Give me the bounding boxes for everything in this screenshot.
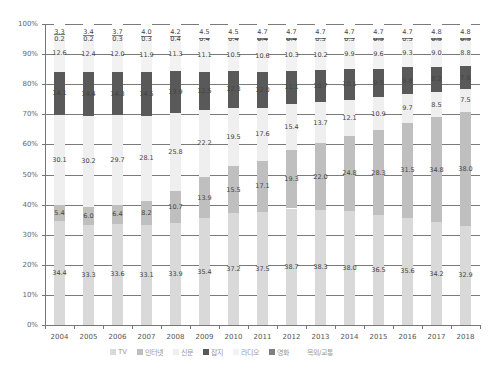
- value-label: 0.3: [132, 35, 162, 43]
- value-label: 17.6: [248, 130, 278, 138]
- x-tick: [248, 325, 249, 329]
- value-label: 6.0: [74, 212, 104, 220]
- y-tick-label: 80%: [2, 80, 38, 88]
- value-label: 3.3: [45, 28, 75, 36]
- x-tick: [277, 325, 278, 329]
- legend-swatch: [299, 349, 305, 355]
- value-label: 34.2: [422, 270, 452, 278]
- value-label: 37.5: [248, 265, 278, 273]
- legend-label: TV: [118, 348, 127, 356]
- value-label: 14.1: [45, 89, 75, 97]
- value-label: 9.0: [422, 49, 452, 57]
- value-label: 8.5: [422, 101, 452, 109]
- x-tick-label: 2005: [74, 333, 104, 341]
- value-label: 12.4: [74, 50, 104, 58]
- x-tick: [393, 325, 394, 329]
- value-label: 10.3: [277, 51, 307, 59]
- legend-item: 옥외/교통: [299, 347, 333, 357]
- value-label: 8.2: [132, 209, 162, 217]
- value-label: 19.5: [219, 133, 249, 141]
- value-label: 30.1: [45, 156, 75, 164]
- value-label: 38.7: [277, 263, 307, 271]
- x-tick: [103, 325, 104, 329]
- value-label: 25.8: [161, 148, 191, 156]
- value-label: 8.8: [451, 49, 481, 57]
- value-label: 9.3: [393, 49, 423, 57]
- value-label: 4.8: [451, 28, 481, 36]
- x-tick-label: 2016: [393, 333, 423, 341]
- y-tick-label: 70%: [2, 110, 38, 118]
- value-label: 0.3: [103, 35, 133, 43]
- value-label: 9.5: [364, 79, 394, 87]
- legend-item: 잡지: [203, 347, 223, 357]
- y-tick-label: 60%: [2, 140, 38, 148]
- value-label: 12.3: [219, 85, 249, 93]
- legend-label: 인터넷: [145, 347, 163, 357]
- value-label: 8.2: [422, 75, 452, 83]
- x-tick-label: 2017: [422, 333, 452, 341]
- value-label: 9.6: [364, 50, 394, 58]
- x-tick-label: 2004: [45, 333, 75, 341]
- value-label: 0.4: [161, 35, 191, 43]
- x-tick: [480, 325, 481, 329]
- value-label: 11.1: [190, 51, 220, 59]
- value-label: 36.5: [364, 266, 394, 274]
- value-label: 28.1: [132, 154, 162, 162]
- value-label: 32.9: [451, 271, 481, 279]
- value-label: 9.7: [393, 104, 423, 112]
- value-label: 33.1: [132, 271, 162, 279]
- legend-swatch: [137, 349, 143, 355]
- x-tick: [132, 325, 133, 329]
- value-label: 10.7: [161, 203, 191, 211]
- stacked-bar-chart: 0%10%20%30%40%50%60%70%80%90%100% 34.45.…: [0, 0, 504, 377]
- value-label: 4.8: [422, 28, 452, 36]
- x-tick: [335, 325, 336, 329]
- x-tick: [161, 325, 162, 329]
- x-tick: [219, 325, 220, 329]
- value-label: 29.7: [103, 156, 133, 164]
- x-tick-label: 2013: [306, 333, 336, 341]
- value-label: 5.4: [45, 209, 75, 217]
- value-label: 3.4: [74, 28, 104, 36]
- value-label: 12.6: [45, 49, 75, 57]
- value-label: 0.2: [74, 35, 104, 43]
- value-label: 4.7: [393, 28, 423, 36]
- value-label: 38.3: [306, 263, 336, 271]
- legend-swatch: [110, 349, 116, 355]
- value-label: 12.0: [248, 86, 278, 94]
- legend-swatch: [173, 349, 179, 355]
- x-tick-label: 2007: [132, 333, 162, 341]
- y-tick-label: 0%: [2, 321, 38, 329]
- value-label: 19.3: [277, 175, 307, 183]
- y-tick-label: 10%: [2, 291, 38, 299]
- y-tick-label: 40%: [2, 201, 38, 209]
- x-tick: [422, 325, 423, 329]
- value-label: 0.2: [45, 35, 75, 43]
- legend-label: 잡지: [211, 347, 223, 357]
- value-label: 33.9: [161, 270, 191, 278]
- x-tick-label: 2015: [364, 333, 394, 341]
- y-axis-line: [45, 24, 46, 326]
- value-label: 33.6: [103, 270, 133, 278]
- legend-swatch: [269, 349, 275, 355]
- value-label: 3.7: [103, 28, 133, 36]
- x-tick-label: 2008: [161, 333, 191, 341]
- value-label: 10.9: [364, 110, 394, 118]
- y-tick-label: 90%: [2, 50, 38, 58]
- value-label: 33.3: [74, 271, 104, 279]
- value-label: 7.5: [451, 96, 481, 104]
- value-label: 22.0: [306, 173, 336, 181]
- y-tick-label: 50%: [2, 171, 38, 179]
- value-label: 15.5: [219, 186, 249, 194]
- value-label: 38.0: [451, 165, 481, 173]
- legend-item: 인터넷: [137, 347, 163, 357]
- value-label: 34.4: [45, 269, 75, 277]
- value-label: 13.9: [161, 88, 191, 96]
- legend-swatch: [233, 349, 239, 355]
- x-tick: [190, 325, 191, 329]
- y-tick-label: 100%: [2, 20, 38, 28]
- x-tick-label: 2014: [335, 333, 365, 341]
- y-tick-label: 20%: [2, 261, 38, 269]
- value-label: 12.5: [190, 87, 220, 95]
- value-label: 17.1: [248, 182, 278, 190]
